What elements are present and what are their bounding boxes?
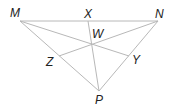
label-W: W: [92, 27, 105, 41]
triangle-diagram: M N X W Z Y P: [0, 0, 175, 111]
label-M: M: [10, 6, 20, 20]
label-Z: Z: [45, 55, 54, 69]
label-Y: Y: [132, 53, 141, 67]
label-N: N: [155, 7, 164, 21]
label-X: X: [83, 7, 93, 21]
label-P: P: [95, 93, 103, 107]
